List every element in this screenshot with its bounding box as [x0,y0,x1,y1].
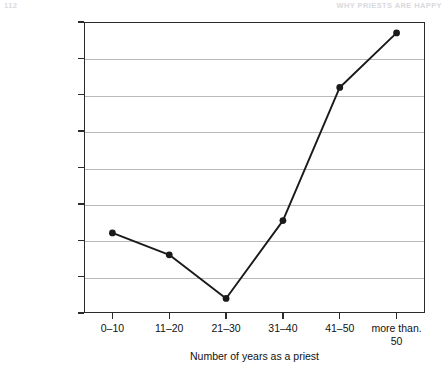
x-tick-mark [169,313,170,319]
x-tick-mark [112,313,113,319]
x-tick-mark [282,313,283,319]
y-tick-mark [78,21,84,22]
gridline [85,96,424,97]
plot-area [84,22,425,313]
y-tick-mark [78,276,84,277]
gridline [85,205,424,206]
line-chart-figure: 4.54.454.44.354.34.254.24.154.1 Mean of … [0,0,447,377]
y-tick-mark [78,167,84,168]
gridline [85,59,424,60]
x-axis-title: Number of years as a priest [84,350,425,362]
gridline [85,132,424,133]
y-tick-mark [78,94,84,95]
y-tick-mark [78,203,84,204]
x-tick-label: more than.50 [352,322,442,347]
y-tick-mark [78,58,84,59]
gridline [85,241,424,242]
gridline [85,278,424,279]
y-tick-mark [78,312,84,313]
y-tick-mark [78,240,84,241]
gridline [85,169,424,170]
x-tick-mark [339,313,340,319]
y-tick-mark [78,130,84,131]
x-tick-mark [396,313,397,319]
x-tick-mark [225,313,226,319]
